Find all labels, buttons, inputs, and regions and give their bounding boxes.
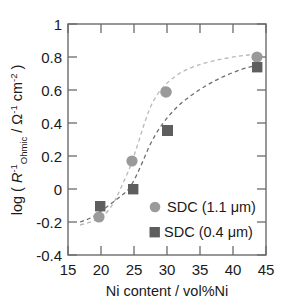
y-title-r-sub: Ohmic — [18, 136, 29, 164]
legend-label-sdc-1-1: SDC (1.1 μm) — [167, 199, 256, 215]
y-title-omega: Ω — [9, 114, 25, 125]
x-tick-label: 40 — [225, 261, 242, 278]
y-tick-label: 0.8 — [41, 49, 62, 66]
y-title-divider: / — [9, 125, 25, 137]
legend-label-sdc-0-4: SDC (0.4 μm) — [164, 224, 253, 240]
data-point-square — [162, 125, 173, 136]
y-tick-label: 0 — [54, 181, 62, 198]
x-tick-label: 25 — [126, 261, 143, 278]
y-tick-label: 1 — [54, 16, 62, 33]
x-axis-title: Ni content / vol%Ni — [106, 283, 229, 299]
legend: SDC (1.1 μm) SDC (0.4 μm) — [150, 199, 256, 240]
data-point-square — [128, 184, 138, 194]
y-title-r-sup: -1 — [8, 164, 19, 172]
chart-figure: 1 0.8 0.6 0.4 0.2 0 -0.2 -0.4 15 20 25 3… — [0, 0, 291, 306]
data-point-square — [95, 201, 105, 211]
y-tick-label: 0.2 — [41, 148, 62, 165]
x-tick-label: 30 — [159, 261, 176, 278]
series-sdc-0-4-markers — [95, 62, 262, 211]
x-tick-label: 20 — [93, 261, 110, 278]
svg-text:log ( R-1Ohmic / Ω-1 cm-2 ): log ( R-1Ohmic / Ω-1 cm-2 ) — [8, 65, 29, 216]
y-title-prefix: log ( — [9, 183, 25, 215]
x-tick-label: 35 — [192, 261, 209, 278]
data-point-square — [252, 62, 262, 72]
y-tick-label: -0.4 — [36, 247, 62, 264]
x-tick-label: 45 — [258, 261, 275, 278]
y-title-r: R — [9, 172, 25, 183]
data-point-circle — [126, 155, 137, 166]
y-axis-tick-labels: 1 0.8 0.6 0.4 0.2 0 -0.2 -0.4 — [36, 16, 62, 264]
data-point-circle — [93, 211, 104, 222]
y-title-cm-sup: -2 — [8, 74, 19, 82]
y-title-cm: cm — [9, 82, 25, 105]
y-axis-title: log ( R-1Ohmic / Ω-1 cm-2 ) — [8, 65, 29, 216]
y-tick-label: 0.4 — [41, 115, 62, 132]
y-tick-label: 0.6 — [41, 82, 62, 99]
y-tick-label: -0.2 — [36, 214, 62, 231]
data-point-circle — [251, 51, 262, 62]
x-tick-label: 15 — [60, 261, 77, 278]
legend-marker-circle — [150, 202, 161, 213]
data-point-circle — [160, 86, 172, 98]
y-title-suffix: ) — [9, 65, 25, 74]
legend-marker-square — [150, 227, 160, 237]
y-title-omega-sup: -1 — [8, 105, 19, 113]
scatter-plot: 1 0.8 0.6 0.4 0.2 0 -0.2 -0.4 15 20 25 3… — [0, 0, 291, 306]
x-axis-tick-labels: 15 20 25 30 35 40 45 — [60, 261, 275, 278]
